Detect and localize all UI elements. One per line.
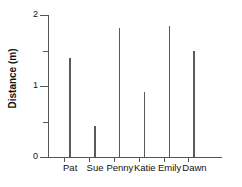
y-tick-major: [40, 86, 48, 87]
x-axis-category-label: Dawn: [182, 162, 206, 173]
y-tick-label: 0: [26, 152, 38, 161]
bar-chart: Distance (m) 012 PatSuePennyKatieEmilyDa…: [0, 0, 242, 187]
x-axis-category-label: Sue: [87, 162, 104, 173]
bar: [94, 126, 96, 157]
bar: [169, 26, 171, 157]
y-tick-major: [40, 157, 48, 158]
y-tick-minor: [43, 51, 48, 52]
y-tick-major: [40, 15, 48, 16]
bar: [119, 28, 121, 157]
y-tick-label: 1: [26, 81, 38, 90]
x-axis-category-label: Penny: [106, 162, 133, 173]
x-axis-labels: PatSuePennyKatieEmilyDawn: [48, 162, 222, 176]
bar: [69, 58, 71, 157]
y-axis-line: [48, 15, 49, 158]
bar: [193, 51, 195, 158]
y-axis-title-label: Distance (m): [7, 48, 18, 108]
x-axis-category-label: Katie: [134, 162, 156, 173]
y-axis-title: Distance (m): [0, 0, 24, 157]
plot-area: [48, 15, 222, 157]
x-axis-line: [48, 157, 222, 158]
y-tick-minor: [43, 122, 48, 123]
y-tick-label: 2: [26, 10, 38, 19]
bar: [144, 92, 146, 157]
x-axis-category-label: Pat: [63, 162, 77, 173]
x-axis-category-label: Emily: [158, 162, 181, 173]
